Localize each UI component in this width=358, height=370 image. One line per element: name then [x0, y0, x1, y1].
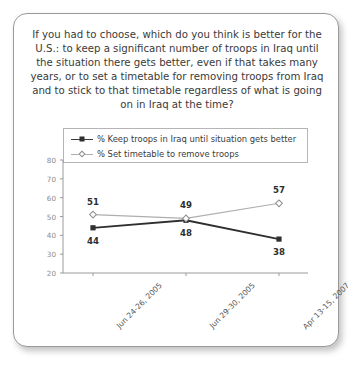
- data-point-label: 48: [180, 228, 192, 238]
- x-axis-tick-label: Apr 13-15, 2007: [301, 281, 351, 331]
- legend-marker-filled-square-icon: [71, 133, 93, 145]
- y-axis-tick-label: 70: [38, 175, 56, 184]
- legend-label-set-timetable: % Set timetable to remove troops: [97, 149, 239, 159]
- y-axis-tick-label: 50: [38, 213, 56, 222]
- legend-item-set-timetable: % Set timetable to remove troops: [71, 147, 239, 161]
- data-point-label: 57: [273, 185, 285, 195]
- chart-legend: % Keep troops in Iraq until situation ge…: [63, 128, 308, 163]
- y-axis-tick-label: 40: [38, 231, 56, 240]
- y-axis-tick-label: 60: [38, 194, 56, 203]
- legend-item-keep-troops: % Keep troops in Iraq until situation ge…: [71, 132, 296, 146]
- legend-marker-open-diamond-icon: [71, 148, 93, 160]
- question-text: If you had to choose, which do you think…: [30, 28, 324, 113]
- x-axis-tick-label: Jun 24-26, 2005: [115, 281, 164, 330]
- data-point-label: 51: [87, 197, 99, 207]
- data-point-label: 38: [273, 247, 285, 257]
- data-point-label: 49: [180, 200, 192, 210]
- x-axis-tick-label: Jun 29-30, 2005: [208, 281, 257, 330]
- y-axis-tick-label: 80: [38, 156, 56, 165]
- legend-label-keep-troops: % Keep troops in Iraq until situation ge…: [97, 134, 296, 144]
- chart-card: If you had to choose, which do you think…: [13, 13, 339, 347]
- data-point-label: 44: [87, 236, 99, 246]
- y-axis-tick-label: 30: [38, 250, 56, 259]
- y-axis-tick-label: 20: [38, 269, 56, 278]
